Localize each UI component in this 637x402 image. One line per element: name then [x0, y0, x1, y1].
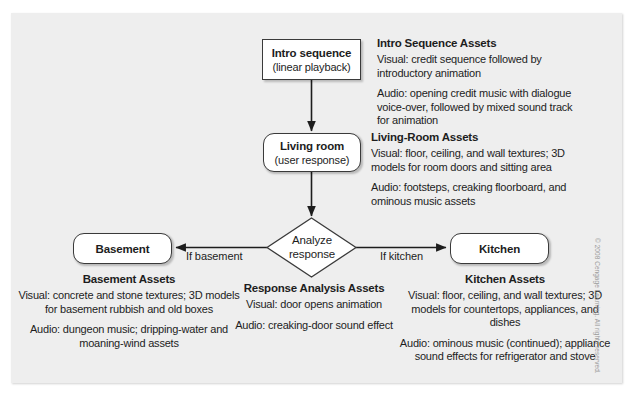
assets-response-analysis-visual: Visual: door opens animation	[219, 298, 409, 312]
node-intro-sequence-title: Intro sequence	[272, 46, 352, 60]
decision-label-line1: Analyze	[268, 234, 356, 248]
assets-basement-audio: Audio: dungeon music; dripping-water and…	[18, 323, 240, 350]
edge-label-if-basement: If basement	[186, 250, 242, 262]
assets-kitchen-visual: Visual: floor, ceiling, and wall texture…	[398, 289, 612, 330]
assets-basement: Basement Assets Visual: concrete and sto…	[18, 272, 240, 350]
assets-intro-sequence: Intro Sequence Assets Visual: credit seq…	[377, 36, 582, 128]
node-living-room-subtitle: (user response)	[275, 153, 350, 167]
assets-living-room: Living-Room Assets Visual: floor, ceilin…	[371, 130, 586, 208]
assets-intro-sequence-heading: Intro Sequence Assets	[377, 36, 582, 51]
node-kitchen[interactable]: Kitchen	[450, 233, 549, 264]
node-basement[interactable]: Basement	[73, 233, 172, 264]
assets-basement-visual: Visual: concrete and stone textures; 3D …	[18, 289, 240, 316]
flowchart-figure: Intro sequence (linear playback) Living …	[0, 0, 637, 402]
copyright-notice: © 2008 Cengage Learning. All rights rese…	[594, 238, 601, 388]
assets-response-analysis-heading: Response Analysis Assets	[219, 281, 409, 296]
node-basement-title: Basement	[96, 242, 150, 256]
node-living-room-title: Living room	[280, 139, 344, 153]
node-living-room[interactable]: Living room (user response)	[263, 133, 361, 172]
assets-living-room-heading: Living-Room Assets	[371, 130, 586, 145]
assets-kitchen-audio: Audio: ominous music (continued); applia…	[398, 337, 612, 364]
node-intro-sequence[interactable]: Intro sequence (linear playback)	[262, 39, 361, 80]
assets-kitchen: Kitchen Assets Visual: floor, ceiling, a…	[398, 272, 612, 364]
assets-intro-sequence-visual: Visual: credit sequence followed by intr…	[377, 53, 582, 80]
decision-label: Analyze response	[268, 234, 356, 261]
assets-kitchen-heading: Kitchen Assets	[398, 272, 612, 287]
assets-response-analysis: Response Analysis Assets Visual: door op…	[219, 281, 409, 332]
assets-intro-sequence-audio: Audio: opening credit music with dialogu…	[377, 87, 582, 128]
assets-response-analysis-audio: Audio: creaking-door sound effect	[219, 319, 409, 333]
decision-label-line2: response	[268, 248, 356, 262]
assets-living-room-audio: Audio: footsteps, creaking floorboard, a…	[371, 181, 586, 208]
node-intro-sequence-subtitle: (linear playback)	[272, 60, 350, 74]
assets-basement-heading: Basement Assets	[18, 272, 240, 287]
edge-label-if-kitchen: If kitchen	[380, 250, 423, 262]
node-kitchen-title: Kitchen	[479, 242, 520, 256]
assets-living-room-visual: Visual: floor, ceiling, and wall texture…	[371, 147, 586, 174]
